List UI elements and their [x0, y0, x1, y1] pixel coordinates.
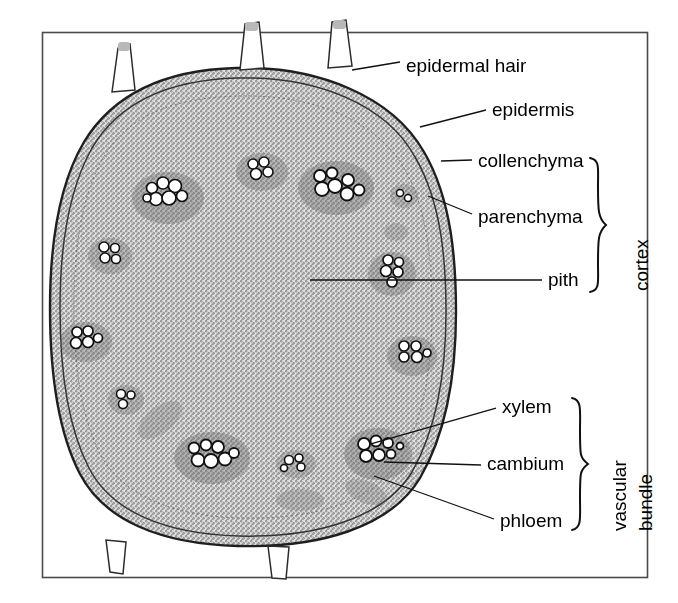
- epidermal-hair: [106, 540, 126, 574]
- vascular-bundle: [60, 322, 112, 362]
- vascular-bundle: [344, 428, 412, 480]
- label-pith: pith: [548, 270, 579, 289]
- vascular-bundle: [88, 238, 132, 274]
- label-epidermis: epidermis: [492, 100, 574, 119]
- vascular-bundle: [276, 450, 316, 478]
- label-collenchyma: collenchyma: [478, 151, 584, 170]
- label-phloem: phloem: [500, 511, 562, 530]
- vascular-bundle: [390, 184, 418, 208]
- vascular-bundle: [368, 252, 416, 296]
- stem-cross-section-figure: [0, 0, 678, 603]
- figure-canvas: epidermal hair epidermis collenchyma par…: [0, 0, 678, 603]
- vascular-bundle: [174, 432, 250, 484]
- label-xylem: xylem: [502, 397, 552, 416]
- vascular-bundle: [298, 161, 374, 215]
- vascular-bundle: [236, 153, 288, 191]
- label-vascular: vascular: [610, 460, 629, 531]
- vascular-bundle: [387, 336, 437, 376]
- vascular-bundle: [108, 385, 144, 415]
- label-parenchyma: parenchyma: [478, 207, 583, 226]
- label-cortex: cortex: [632, 239, 651, 291]
- label-cambium: cambium: [487, 454, 564, 473]
- epidermal-hair: [268, 546, 289, 579]
- label-bundle: bundle: [636, 474, 655, 531]
- label-epidermal-hair: epidermal hair: [406, 56, 526, 75]
- vascular-bundle: [132, 172, 204, 224]
